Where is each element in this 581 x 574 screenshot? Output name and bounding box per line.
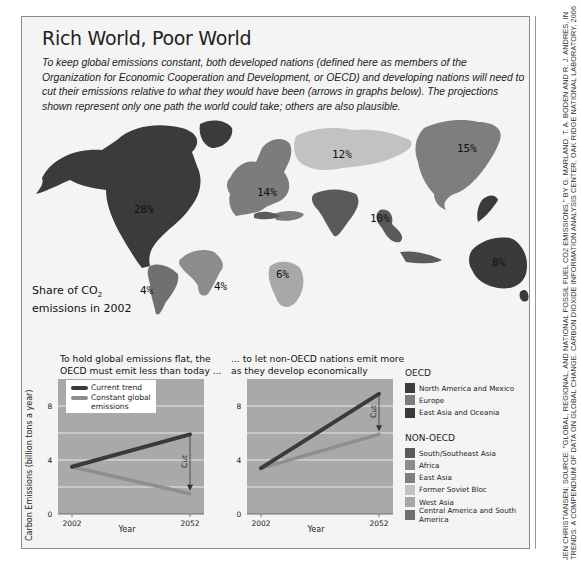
x-axis-label: Year: [307, 525, 326, 534]
legend-item: Europe: [405, 394, 535, 406]
credit-divider: [535, 16, 536, 549]
legend-label: South/Southeast Asia: [419, 449, 496, 458]
x-tick-label: 2002: [62, 519, 81, 528]
legend-item: South/Southeast Asia: [405, 447, 535, 459]
pct-west-asia: 6%: [276, 268, 290, 281]
y-tick-label: 0: [237, 510, 242, 519]
chart-non-oecd: 04820022052YearCut: [237, 379, 393, 534]
map-caption-line1: Share of CO: [32, 284, 98, 297]
legend-swatch: [405, 448, 415, 458]
legend-oecd-heading: OECD: [405, 368, 535, 378]
x-axis-label: Year: [118, 525, 137, 534]
region-europe: [227, 139, 304, 221]
legend-swatch: [405, 485, 415, 495]
pct-north-america: 28%: [134, 203, 154, 216]
legend-label: Central America and South America: [419, 506, 535, 524]
map-caption-sub: 2: [98, 291, 102, 299]
legend-constant-line2: emissions: [91, 402, 129, 411]
y-tick-label: 0: [48, 510, 53, 519]
legend-label: Africa: [419, 461, 440, 470]
pct-oceania: 8%: [492, 256, 506, 269]
legend-swatch-constant: [71, 396, 88, 400]
legend-constant: Constant global emissions: [71, 393, 151, 411]
credit-text: JEN CHRISTIANSEN; SOURCE: "GLOBAL, REGIO…: [562, 0, 578, 560]
legend-item: East Asia and Oceania: [405, 407, 535, 419]
x-tick-label: 2052: [369, 519, 388, 528]
map-caption-line2: emissions in 2002: [32, 302, 132, 315]
region-south-southeast-asia: [254, 190, 442, 264]
legend-current-label: Current trend: [91, 383, 142, 392]
legend-swatch: [405, 497, 415, 507]
legend-swatch: [405, 395, 415, 405]
legend-swatch: [405, 473, 415, 483]
y-tick-label: 4: [237, 456, 242, 465]
y-tick-label: 8: [48, 402, 53, 411]
pct-east-asia: 15%: [457, 142, 477, 155]
chart1-title-line1: To hold global emissions flat, the: [60, 353, 211, 364]
figure-title: Rich World, Poor World: [42, 27, 251, 49]
chart2-title-line1: ... to let non-OECD nations emit more: [231, 353, 404, 364]
x-tick-label: 2002: [251, 519, 270, 528]
region-north-america: [36, 125, 201, 268]
legend-swatch: [405, 510, 415, 520]
legend-swatch-current: [71, 386, 88, 390]
region-former-soviet-bloc: [294, 128, 411, 170]
legend-swatch: [405, 408, 415, 418]
region-legend: OECD North America and MexicoEuropeEast …: [405, 368, 535, 521]
legend-label: East Asia and Oceania: [419, 408, 499, 417]
pct-south-asia: 10%: [370, 212, 390, 225]
line-legend: Current trend Constant global emissions: [66, 380, 156, 413]
pct-africa: 4%: [214, 280, 228, 293]
legend-item: East Asia: [405, 471, 535, 483]
legend-label: Europe: [419, 396, 444, 405]
legend-item: North America and Mexico: [405, 382, 535, 394]
cut-annotation: Cut: [369, 405, 378, 418]
legend-item: Central America and South America: [405, 508, 535, 520]
legend-constant-line1: Constant global: [91, 393, 151, 402]
pct-former-soviet: 12%: [332, 148, 352, 161]
legend-item: Former Soviet Bloc: [405, 484, 535, 496]
legend-item: Africa: [405, 459, 535, 471]
legend-non-oecd-heading: NON-OECD: [405, 433, 535, 443]
legend-label: East Asia: [419, 473, 452, 482]
x-tick-label: 2052: [180, 519, 199, 528]
intro-text: To keep global emissions constant, both …: [42, 56, 527, 114]
region-greenland: [200, 121, 233, 148]
map-caption: Share of CO2 emissions in 2002: [32, 284, 132, 316]
pct-south-america: 4%: [140, 284, 154, 297]
y-tick-label: 8: [237, 402, 242, 411]
y-axis-label: Carbon Emissions (billion tons a year): [25, 390, 34, 542]
legend-current-trend: Current trend: [71, 383, 142, 392]
legend-swatch: [405, 383, 415, 393]
pct-europe: 14%: [257, 186, 277, 199]
legend-constant-label: Constant global emissions: [91, 393, 151, 411]
cut-annotation: Cut: [180, 455, 189, 468]
legend-swatch: [405, 460, 415, 470]
region-japan: [477, 196, 498, 223]
legend-label: Former Soviet Bloc: [419, 485, 487, 494]
y-tick-label: 4: [48, 456, 53, 465]
legend-label: North America and Mexico: [419, 384, 514, 393]
region-australia: [469, 238, 529, 302]
